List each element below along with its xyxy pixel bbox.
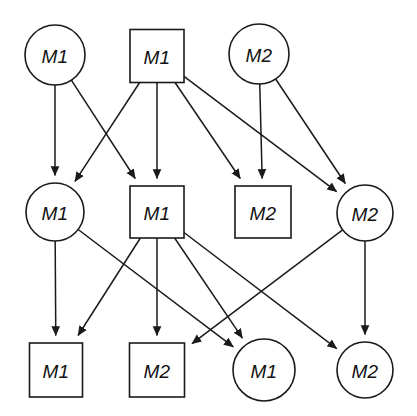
graph-edge (260, 84, 262, 179)
graph-edge (192, 230, 343, 344)
node-label: M1 (144, 203, 171, 224)
node-label: M2 (144, 361, 171, 382)
graph-edge (55, 241, 56, 336)
node-label: M2 (246, 45, 273, 66)
node-label: M2 (352, 204, 379, 225)
node-label: M1 (251, 361, 278, 382)
node-label: M1 (42, 46, 69, 67)
graph-edge (175, 238, 243, 338)
node-label: M2 (352, 361, 379, 382)
graph-node-n10[interactable]: M1 (233, 339, 295, 401)
graph-edge (276, 79, 346, 184)
node-label: M1 (144, 47, 171, 68)
graph-edge (71, 80, 135, 178)
node-label: M1 (42, 203, 69, 224)
graph-svg: M1M1M2M1M1M2M2M1M2M1M2 (0, 0, 417, 416)
graph-node-n6[interactable]: M2 (235, 186, 291, 238)
graph-node-n7[interactable]: M2 (337, 185, 393, 241)
graph-edge (184, 233, 337, 349)
node-label: M1 (43, 361, 70, 382)
node-label: M2 (250, 203, 277, 224)
edges-layer (55, 76, 365, 348)
graph-node-n9[interactable]: M2 (130, 343, 185, 397)
graph-edge (175, 83, 240, 179)
graph-edge (75, 83, 140, 182)
graph-node-n5[interactable]: M1 (130, 186, 184, 238)
graph-node-n3[interactable]: M2 (229, 24, 289, 84)
graph-node-n11[interactable]: M2 (337, 342, 393, 398)
diagram-canvas: M1M1M2M1M1M2M2M1M2M1M2 (0, 0, 417, 416)
nodes-layer: M1M1M2M1M1M2M2M1M2M1M2 (25, 24, 393, 401)
graph-node-n2[interactable]: M1 (130, 30, 184, 83)
graph-node-n8[interactable]: M1 (30, 343, 83, 397)
graph-node-n4[interactable]: M1 (26, 183, 84, 241)
graph-node-n1[interactable]: M1 (25, 25, 85, 85)
